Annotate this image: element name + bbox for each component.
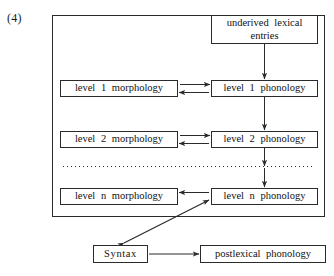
figure-container: (4) underived lexical entr bbox=[0, 0, 334, 276]
node-postlexical-phonology: postlexical phonology bbox=[200, 245, 326, 263]
node-level-n-phonology: level n phonology bbox=[211, 188, 318, 205]
node-level-2-phonology: level 2 phonology bbox=[211, 131, 318, 148]
node-level-1-morphology: level 1 morphology bbox=[60, 80, 178, 97]
node-level-2-morphology: level 2 morphology bbox=[60, 131, 178, 148]
edge-leveln-phonology-syntax-bidirectional bbox=[124, 200, 209, 243]
lexicon-frame bbox=[53, 16, 325, 217]
node-level-1-phonology: level 1 phonology bbox=[211, 80, 318, 97]
node-syntax: Syntax bbox=[93, 245, 148, 263]
node-underived-lexical-entries: underived lexical entries bbox=[211, 15, 318, 44]
node-level-n-morphology: level n morphology bbox=[60, 188, 178, 205]
